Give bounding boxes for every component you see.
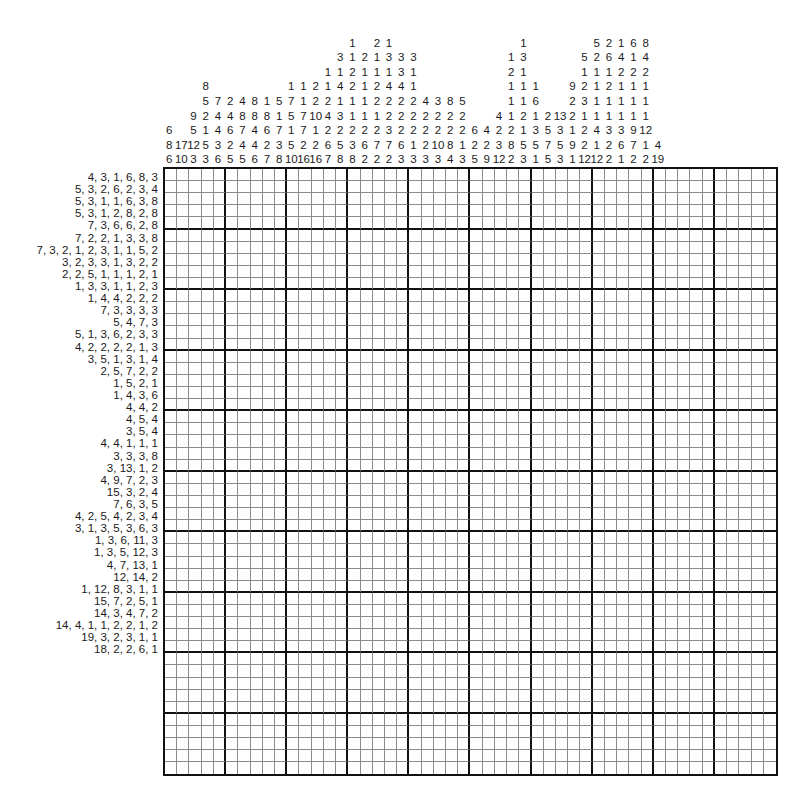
grid-cell[interactable]	[177, 169, 189, 181]
grid-cell[interactable]	[532, 290, 544, 302]
grid-cell[interactable]	[764, 484, 776, 496]
grid-cell[interactable]	[666, 544, 678, 556]
grid-cell[interactable]	[202, 557, 214, 569]
grid-cell[interactable]	[507, 266, 519, 278]
grid-cell[interactable]	[483, 339, 495, 351]
grid-cell[interactable]	[458, 205, 470, 217]
grid-cell[interactable]	[177, 581, 189, 593]
grid-cell[interactable]	[324, 738, 336, 750]
grid-cell[interactable]	[727, 750, 739, 762]
grid-cell[interactable]	[544, 750, 556, 762]
grid-cell[interactable]	[495, 690, 507, 702]
grid-cell[interactable]	[263, 593, 275, 605]
grid-cell[interactable]	[678, 254, 690, 266]
grid-cell[interactable]	[458, 714, 470, 726]
grid-cell[interactable]	[348, 532, 360, 544]
grid-cell[interactable]	[299, 641, 311, 653]
grid-cell[interactable]	[556, 593, 568, 605]
grid-cell[interactable]	[324, 375, 336, 387]
grid-cell[interactable]	[690, 496, 702, 508]
grid-cell[interactable]	[226, 205, 238, 217]
grid-cell[interactable]	[605, 581, 617, 593]
grid-cell[interactable]	[312, 302, 324, 314]
grid-cell[interactable]	[556, 544, 568, 556]
grid-cell[interactable]	[593, 738, 605, 750]
grid-cell[interactable]	[202, 738, 214, 750]
grid-cell[interactable]	[483, 278, 495, 290]
grid-cell[interactable]	[287, 472, 299, 484]
grid-cell[interactable]	[617, 653, 629, 665]
grid-cell[interactable]	[752, 217, 764, 229]
grid-cell[interactable]	[532, 230, 544, 242]
grid-cell[interactable]	[532, 678, 544, 690]
grid-cell[interactable]	[275, 520, 287, 532]
grid-cell[interactable]	[458, 423, 470, 435]
grid-cell[interactable]	[348, 448, 360, 460]
grid-cell[interactable]	[654, 266, 666, 278]
grid-cell[interactable]	[177, 326, 189, 338]
grid-cell[interactable]	[470, 569, 482, 581]
grid-cell[interactable]	[226, 278, 238, 290]
grid-cell[interactable]	[629, 702, 641, 714]
grid-cell[interactable]	[299, 326, 311, 338]
grid-cell[interactable]	[532, 254, 544, 266]
grid-cell[interactable]	[312, 363, 324, 375]
grid-cell[interactable]	[483, 448, 495, 460]
grid-cell[interactable]	[629, 181, 641, 193]
grid-cell[interactable]	[544, 169, 556, 181]
grid-cell[interactable]	[739, 302, 751, 314]
grid-cell[interactable]	[752, 448, 764, 460]
grid-cell[interactable]	[727, 690, 739, 702]
grid-cell[interactable]	[654, 750, 666, 762]
grid-cell[interactable]	[642, 702, 654, 714]
grid-cell[interactable]	[312, 738, 324, 750]
grid-cell[interactable]	[593, 169, 605, 181]
grid-cell[interactable]	[666, 641, 678, 653]
grid-cell[interactable]	[507, 629, 519, 641]
grid-cell[interactable]	[642, 181, 654, 193]
grid-cell[interactable]	[593, 714, 605, 726]
grid-cell[interactable]	[580, 726, 592, 738]
grid-cell[interactable]	[617, 387, 629, 399]
grid-cell[interactable]	[642, 205, 654, 217]
grid-cell[interactable]	[568, 351, 580, 363]
grid-cell[interactable]	[202, 762, 214, 774]
grid-cell[interactable]	[434, 169, 446, 181]
grid-cell[interactable]	[177, 605, 189, 617]
grid-cell[interactable]	[434, 496, 446, 508]
grid-cell[interactable]	[715, 278, 727, 290]
grid-cell[interactable]	[312, 617, 324, 629]
grid-cell[interactable]	[385, 738, 397, 750]
grid-cell[interactable]	[446, 702, 458, 714]
grid-cell[interactable]	[373, 448, 385, 460]
grid-cell[interactable]	[226, 496, 238, 508]
grid-cell[interactable]	[544, 544, 556, 556]
grid-cell[interactable]	[189, 363, 201, 375]
grid-cell[interactable]	[214, 387, 226, 399]
grid-cell[interactable]	[214, 593, 226, 605]
grid-cell[interactable]	[532, 266, 544, 278]
grid-cell[interactable]	[458, 193, 470, 205]
grid-cell[interactable]	[275, 254, 287, 266]
grid-cell[interactable]	[507, 448, 519, 460]
grid-cell[interactable]	[409, 738, 421, 750]
grid-cell[interactable]	[422, 290, 434, 302]
grid-cell[interactable]	[446, 205, 458, 217]
grid-cell[interactable]	[202, 544, 214, 556]
grid-cell[interactable]	[446, 641, 458, 653]
grid-cell[interactable]	[299, 653, 311, 665]
grid-cell[interactable]	[165, 217, 177, 229]
grid-cell[interactable]	[434, 411, 446, 423]
grid-cell[interactable]	[458, 629, 470, 641]
grid-cell[interactable]	[275, 762, 287, 774]
grid-cell[interactable]	[580, 738, 592, 750]
grid-cell[interactable]	[165, 266, 177, 278]
grid-cell[interactable]	[434, 205, 446, 217]
grid-cell[interactable]	[556, 314, 568, 326]
grid-cell[interactable]	[544, 508, 556, 520]
grid-cell[interactable]	[727, 205, 739, 217]
grid-cell[interactable]	[678, 581, 690, 593]
grid-cell[interactable]	[336, 230, 348, 242]
grid-cell[interactable]	[361, 726, 373, 738]
grid-cell[interactable]	[752, 653, 764, 665]
